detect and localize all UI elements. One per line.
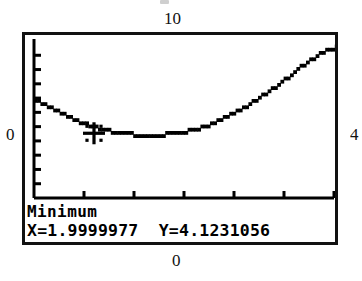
right-axis-label: 4 [350, 126, 362, 143]
bottom-axis-label: 0 [172, 252, 181, 269]
calculator-readout: Minimum X=1.9999977 Y=4.1231056 [27, 202, 333, 240]
function-trace [34, 45, 335, 138]
top-axis-label: 10 [164, 10, 181, 27]
readout-operation-label: Minimum [27, 202, 333, 221]
left-axis-label: 0 [6, 126, 15, 143]
scan-artifact [160, 0, 169, 4]
readout-coordinates: X=1.9999977 Y=4.1231056 [27, 221, 333, 240]
calculator-screen[interactable]: Minimum X=1.9999977 Y=4.1231056 [22, 32, 338, 245]
minimum-cursor-icon [83, 122, 105, 144]
screenshot-canvas: 10 0 4 0 Minimum X=1.9999977 Y=4.1231056 [0, 0, 362, 281]
